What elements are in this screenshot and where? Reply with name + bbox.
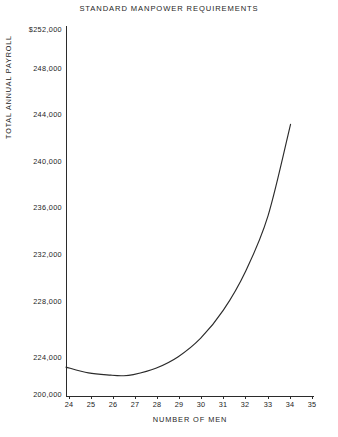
x-tick-label: 34 xyxy=(278,400,302,409)
x-tick-label: 31 xyxy=(211,400,235,409)
x-tick-mark xyxy=(135,396,136,399)
x-tick-mark xyxy=(91,396,92,399)
x-tick-mark xyxy=(290,396,291,399)
plot-area xyxy=(0,0,338,437)
x-tick-label: 30 xyxy=(189,400,213,409)
x-tick-mark xyxy=(223,396,224,399)
x-tick-label: 24 xyxy=(57,400,81,409)
x-tick-mark xyxy=(157,396,158,399)
x-tick-label: 32 xyxy=(233,400,257,409)
x-tick-label: 25 xyxy=(79,400,103,409)
x-tick-mark xyxy=(113,396,114,399)
x-tick-mark xyxy=(179,396,180,399)
x-tick-label: 35 xyxy=(300,400,324,409)
x-tick-label: 27 xyxy=(123,400,147,409)
x-tick-mark xyxy=(312,396,313,399)
cost-curve-line xyxy=(66,124,291,376)
chart-figure: STANDARD MANPOWER REQUIREMENTS TOTAL ANN… xyxy=(0,0,338,437)
x-tick-mark xyxy=(69,396,70,399)
x-tick-label: 33 xyxy=(256,400,280,409)
x-tick-label: 29 xyxy=(167,400,191,409)
x-tick-label: 28 xyxy=(145,400,169,409)
x-tick-mark xyxy=(201,396,202,399)
x-tick-label: 26 xyxy=(101,400,125,409)
x-tick-mark xyxy=(245,396,246,399)
x-tick-mark xyxy=(268,396,269,399)
